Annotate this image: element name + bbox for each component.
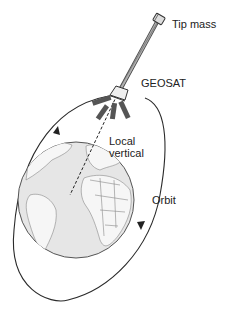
orbit-arrow-icon (137, 221, 145, 230)
tip-mass-label: Tip mass (172, 18, 216, 30)
local-vertical-label-line1: Local (109, 135, 135, 147)
orbit-arrow-icon (53, 126, 60, 135)
geosat-satellite-icon (92, 86, 131, 120)
local-vertical-label-line2: vertical (109, 147, 144, 159)
geosat-label: GEOSAT (141, 77, 186, 89)
earth-globe (18, 142, 134, 258)
orbit-label: Orbit (152, 194, 176, 206)
